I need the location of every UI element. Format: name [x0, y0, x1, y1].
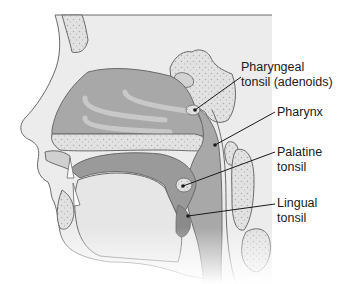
leader-dot-pharynx — [213, 143, 217, 147]
leader-dot-lingual-tonsil — [186, 214, 190, 218]
right-edge-mask — [272, 0, 349, 284]
label-pharyngeal-tonsil: Pharyngeal tonsil (adenoids) — [241, 60, 333, 90]
head-sagittal-section-diagram — [0, 0, 349, 284]
label-lingual-tonsil: Lingual tonsil — [277, 196, 317, 226]
leader-dot-palatine-tonsil — [181, 184, 185, 188]
leader-dot-pharyngeal-tonsil — [193, 108, 197, 112]
label-palatine-tonsil: Palatine tonsil — [277, 145, 322, 175]
label-pharynx: Pharynx — [277, 105, 323, 120]
